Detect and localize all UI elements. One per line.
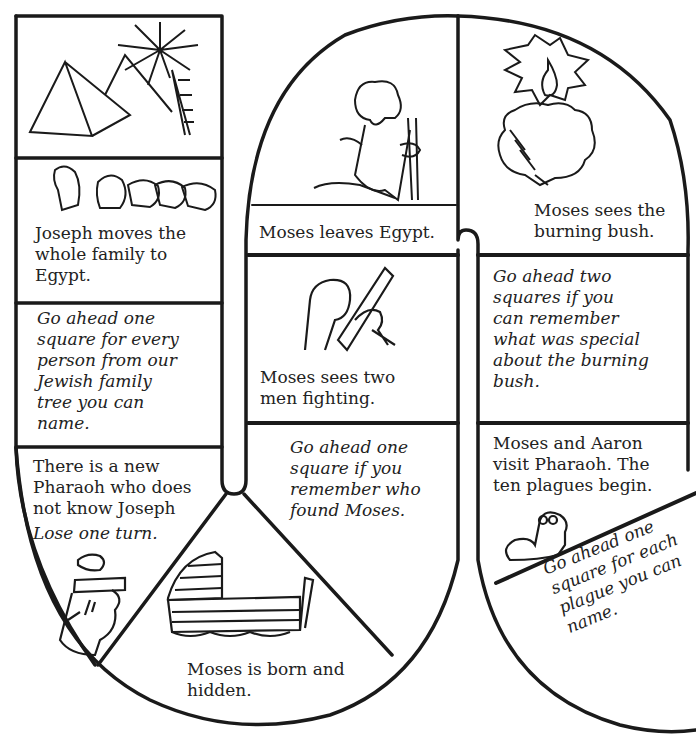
square-egypt-pyramids[interactable] (18, 18, 220, 156)
square-action-new-pharaoh: Lose one turn. (33, 523, 158, 544)
square-text-new-pharaoh: There is a new Pharaoh who does not know… (33, 456, 191, 519)
square-text-moses-born: Moses is born and hidden. (187, 659, 345, 701)
square-text-remember-bush: Go ahead two squares if you can remember… (493, 266, 649, 392)
square-text-who-found-moses: Go ahead one square if you remember who … (290, 437, 421, 521)
square-text-two-men-fighting: Moses sees two men fighting. (260, 367, 395, 409)
square-text-family-tree: Go ahead one square for every person fro… (37, 308, 179, 434)
square-text-joseph-family: Joseph moves the whole family to Egypt. (35, 223, 186, 286)
square-text-ten-plagues: Moses and Aaron visit Pharaoh. The ten p… (493, 433, 652, 496)
square-text-moses-leaves: Moses leaves Egypt. (259, 222, 435, 243)
square-text-burning-bush: Moses sees the burning bush. (534, 200, 665, 242)
